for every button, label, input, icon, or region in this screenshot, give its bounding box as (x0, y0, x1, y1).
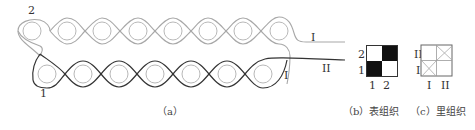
top-yarn-end-label: I (311, 32, 315, 43)
back-grid (420, 44, 454, 78)
top-yarn-start-label: 2 (28, 5, 35, 16)
col-label-1: 1 (369, 80, 376, 91)
bottom-loop-end-label: I (284, 70, 288, 81)
row-label-1: 1 (358, 65, 365, 76)
double-knit-yarn-diagram (0, 0, 475, 130)
col-label-II: II (441, 80, 450, 91)
figure-a-caption: （a） (157, 107, 183, 117)
figure-c-caption: （c）里组织 (410, 107, 466, 117)
bottom-yarn-end-label: II (322, 63, 331, 74)
row-label-2: 2 (358, 49, 365, 60)
cell-r1c2 (382, 46, 397, 61)
col-label-2: 2 (383, 80, 390, 91)
cell-r2c2 (382, 61, 397, 76)
bottom-yarn-start-label: 1 (40, 88, 47, 99)
bottom-row-needle-circles (38, 65, 272, 83)
col-label-I: I (427, 80, 431, 91)
cell-r2c1 (367, 61, 382, 76)
cell-r1c1 (367, 46, 382, 61)
figure-b-caption: （b）表组织 (343, 107, 399, 117)
face-grid (366, 45, 398, 77)
